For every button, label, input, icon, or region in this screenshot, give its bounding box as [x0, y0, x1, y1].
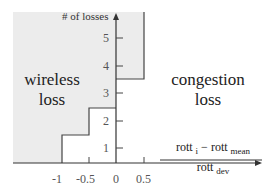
y-axis-title: # of losses	[62, 10, 108, 22]
wireless-loss-label: wireless loss	[20, 70, 84, 110]
y-tick-4: 4	[103, 59, 109, 74]
x-axis-denominator: rott dev	[163, 160, 263, 176]
y-tick-5: 5	[103, 31, 109, 46]
y-tick-1: 1	[103, 141, 109, 156]
congestion-label-line2: loss	[163, 90, 253, 110]
x-tick-neg0-5: -0.5	[76, 172, 95, 187]
congestion-loss-label: congestion loss	[163, 70, 253, 110]
wireless-label-line2: loss	[20, 90, 84, 110]
x-axis-numerator: rott i − rott mean	[163, 140, 263, 156]
x-tick-0: 0	[113, 172, 119, 187]
wireless-label-line1: wireless	[20, 70, 84, 90]
x-tick-0-5: 0.5	[136, 172, 151, 187]
congestion-label-line1: congestion	[163, 70, 253, 90]
y-tick-3: 3	[103, 86, 109, 101]
x-tick-neg1: -1	[52, 172, 62, 187]
y-tick-2: 2	[103, 114, 109, 129]
